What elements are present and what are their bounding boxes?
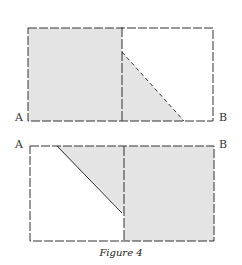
figure-4-diagram [0,0,242,265]
shaded-left-square [28,28,122,121]
label-a-top: A [15,111,23,124]
top-panel [28,27,213,121]
label-b-bottom: B [219,138,227,151]
bottom-panel [30,146,214,241]
figure-caption: Figure 4 [0,247,242,258]
label-b-top: B [219,111,227,124]
shaded-right-square [124,146,214,241]
label-a-bottom: A [15,138,23,151]
